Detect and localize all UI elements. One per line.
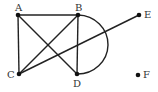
edge-C-E (19, 15, 139, 74)
graph-diagram: ABCDEF (0, 0, 158, 92)
node-label-A: A (14, 2, 23, 13)
node-label-E: E (144, 9, 151, 20)
edges-layer (18, 15, 139, 74)
edge-A-C (18, 15, 19, 74)
edge-B-D-arc (77, 15, 108, 74)
node-label-D: D (73, 78, 81, 89)
edge-A-D (18, 15, 77, 74)
node-E (137, 13, 142, 18)
node-label-F: F (143, 69, 150, 80)
node-label-C: C (7, 69, 15, 80)
edge-B-C (19, 15, 78, 74)
node-label-B: B (75, 2, 82, 13)
node-C (17, 72, 22, 77)
node-A (16, 13, 21, 18)
node-D (75, 72, 80, 77)
node-B (76, 13, 81, 18)
node-F (136, 73, 141, 78)
